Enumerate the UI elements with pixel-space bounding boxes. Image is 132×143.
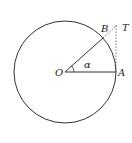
label-b: B [100, 23, 108, 34]
label-a: A [117, 67, 125, 78]
label-o: O [55, 67, 63, 78]
label-t: T [122, 22, 130, 33]
angle-arc [72, 66, 74, 72]
diagram-canvas: O A B T α [0, 0, 132, 143]
label-alpha: α [84, 59, 91, 70]
